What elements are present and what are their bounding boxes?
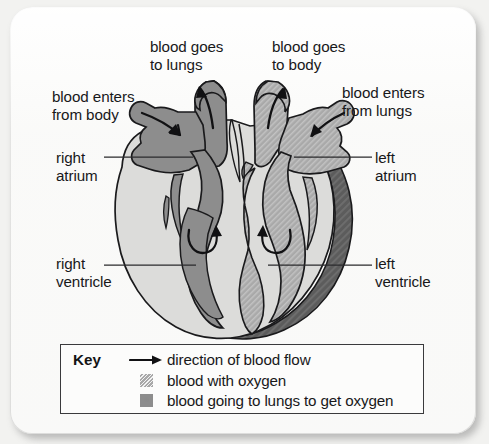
key-row-oxygenated: blood with oxygen	[73, 370, 286, 391]
label-blood-goes-to-body: blood goes to body	[272, 38, 345, 73]
arrow-right-glyph	[129, 354, 163, 366]
key-label-oxygenated: blood with oxygen	[167, 372, 286, 389]
key-row-direction: Key direction of blood flow	[73, 349, 310, 370]
label-blood-enters-from-lungs: blood enters from lungs	[342, 84, 424, 119]
right-atrium-chamber	[130, 102, 206, 173]
screenshot-root: blood goes to lungs blood goes to body b…	[0, 0, 489, 444]
key-label-deoxygenated: blood going to lungs to get oxygen	[167, 392, 393, 409]
label-blood-goes-to-lungs: blood goes to lungs	[150, 38, 223, 73]
key-legend-box: Key direction of blood flow blood with o…	[60, 344, 424, 414]
swatch-deoxygenated-slot	[125, 394, 167, 407]
swatch-deoxygenated-icon	[140, 394, 153, 407]
key-row-deoxygenated: blood going to lungs to get oxygen	[73, 390, 393, 411]
label-left-atrium: left atrium	[375, 149, 417, 184]
key-label-direction: direction of blood flow	[167, 351, 310, 368]
swatch-oxygenated-slot	[125, 374, 167, 387]
label-blood-enters-from-body: blood enters from body	[52, 88, 134, 123]
key-title: Key	[73, 351, 125, 368]
label-left-ventricle: left ventricle	[375, 255, 431, 290]
swatch-oxygenated-icon	[140, 374, 153, 387]
arrow-right-icon	[125, 354, 167, 366]
label-right-atrium: right atrium	[56, 149, 98, 184]
label-right-ventricle: right ventricle	[56, 255, 112, 290]
